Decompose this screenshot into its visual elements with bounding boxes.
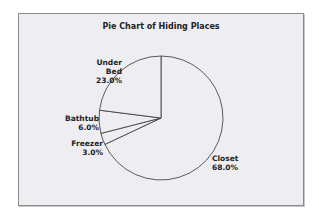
label-under-bed-pct: 23.0% [78, 76, 122, 85]
label-freezer-pct: 3.0% [66, 148, 103, 157]
label-freezer: Freezer 3.0% [66, 139, 103, 157]
label-under-bed: Under Bed 23.0% [78, 58, 122, 85]
label-freezer-name: Freezer [66, 139, 103, 148]
label-under-bed-name: Under Bed [78, 58, 122, 76]
label-bathtub-pct: 6.0% [64, 123, 99, 132]
label-closet-name: Closet [212, 154, 252, 163]
label-bathtub: Bathtub 6.0% [64, 114, 99, 132]
label-bathtub-name: Bathtub [64, 114, 99, 123]
label-closet: Closet 68.0% [212, 154, 252, 172]
label-closet-pct: 68.0% [212, 163, 252, 172]
pie-chart [0, 0, 319, 218]
